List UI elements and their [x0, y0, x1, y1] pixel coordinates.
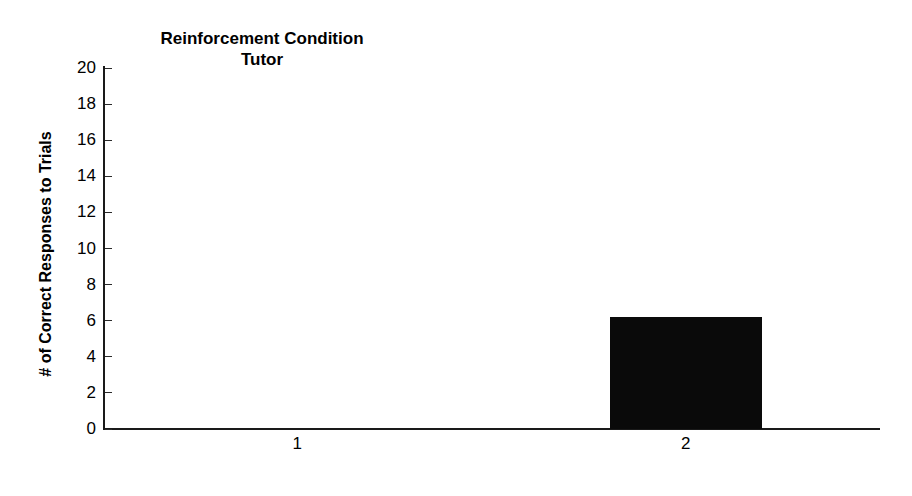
- x-axis-tick-label: 1: [257, 434, 337, 453]
- chart-title-line-1: Reinforcement Condition: [160, 29, 363, 48]
- chart-figure: Reinforcement Condition Tutor # of Corre…: [0, 0, 912, 496]
- y-axis-tick-label: 20: [58, 59, 96, 76]
- y-axis-tick-label: 16: [58, 131, 96, 148]
- y-axis-tick-label: 8: [58, 276, 96, 293]
- y-axis-tick-label: 14: [58, 167, 96, 184]
- y-axis-tick-label: 4: [58, 348, 96, 365]
- chart-title-line-2: Tutor: [127, 49, 397, 70]
- y-axis-tick-label: 2: [58, 384, 96, 401]
- y-axis-tick-label: 18: [58, 95, 96, 112]
- y-axis-tick-label: 6: [58, 312, 96, 329]
- x-axis-tick-label: 2: [646, 434, 726, 453]
- y-axis-title: # of Correct Responses to Trials: [37, 74, 55, 434]
- plot-area: [103, 68, 880, 429]
- y-axis-tick-label: 12: [58, 203, 96, 220]
- chart-title: Reinforcement Condition Tutor: [127, 28, 397, 70]
- y-axis-title-container: # of Correct Responses to Trials: [0, 0, 60, 496]
- y-axis-tick-label: 0: [58, 420, 96, 437]
- bar: [610, 317, 762, 429]
- y-axis-tick-label: 10: [58, 240, 96, 257]
